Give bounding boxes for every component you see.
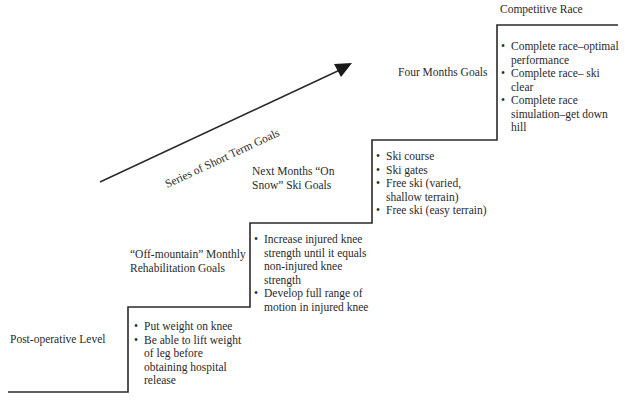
stage-goals-post-operative: Put weight on knee Be able to lift weigh… [134, 320, 249, 388]
goal-item: Ski gates [376, 164, 496, 178]
stage-title-competitive-race: Competitive Race [500, 2, 583, 16]
goal-item: Complete race–optimal performance [501, 40, 619, 67]
stage-title-four-months: Four Months Goals [398, 65, 487, 79]
goal-item: Develop full range of motion in injured … [254, 287, 372, 314]
goal-item: Complete race– ski clear [501, 67, 619, 94]
goal-item: Complete race simulation–get down hill [501, 94, 619, 135]
goal-item: Free ski (varied, shallow terrain) [376, 177, 496, 204]
stage-goals-four-months: Complete race–optimal performance Comple… [501, 40, 619, 135]
stage-title-post-operative: Post-operative Level [10, 332, 105, 346]
stage-title-off-mountain: “Off-mountain” Monthly Rehabilitation Go… [130, 247, 248, 275]
goal-item: Ski course [376, 150, 496, 164]
goal-item: Be able to lift weight of leg before obt… [134, 334, 249, 388]
goal-item: Increase injured knee strength until it … [254, 233, 372, 287]
goal-item: Put weight on knee [134, 320, 249, 334]
goal-item: Free ski (easy terrain) [376, 204, 496, 218]
stage-goals-on-snow: Ski course Ski gates Free ski (varied, s… [376, 150, 496, 218]
stage-goals-off-mountain: Increase injured knee strength until it … [254, 233, 372, 314]
arrow-head-icon [334, 63, 352, 77]
stage-title-on-snow: Next Months “On Snow” Ski Goals [252, 164, 352, 192]
